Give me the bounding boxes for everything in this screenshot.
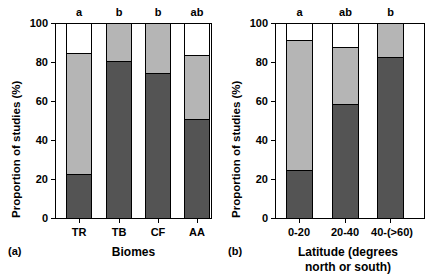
- segment-white: [185, 24, 209, 55]
- segment-light-gray: [67, 53, 91, 174]
- segment-light-gray: [287, 40, 312, 170]
- panel-b-xtick-40-gt60: 40-(>60): [364, 226, 420, 238]
- panel-b-xtick-mark-20-40: [345, 219, 346, 223]
- panel-b-letter-40-gt60: b: [377, 6, 404, 18]
- panel-a-letter-TR: a: [66, 6, 92, 18]
- panel-a-ytick-40: 40: [22, 135, 48, 145]
- panel-a-bar-TR[interactable]: [66, 24, 92, 218]
- panel-a-ytick-0: 0: [22, 213, 48, 223]
- panel-a-letter-TB: b: [106, 6, 132, 18]
- segment-light-gray: [146, 24, 170, 73]
- panel-b-ytick-100: 100: [242, 18, 268, 28]
- panel-b-tag: (b): [228, 245, 242, 257]
- panel-a-xtick-mark-CF: [158, 219, 159, 223]
- segment-light-gray: [333, 47, 358, 104]
- panel-a-ytick-100: 100: [22, 18, 48, 28]
- panel-a-xtick-CF: CF: [138, 226, 178, 238]
- panel-b-ytick-80: 80: [242, 57, 268, 67]
- panel-b-x-axis-title-line2: north or south): [268, 260, 428, 274]
- panel-a-letter-AA: ab: [184, 6, 210, 18]
- segment-dark-gray: [378, 57, 403, 218]
- panel-a-bar-CF[interactable]: [145, 24, 171, 218]
- panel-a-tag: (a): [8, 245, 21, 257]
- panel-a-ytick-60: 60: [22, 96, 48, 106]
- figure-root: Proportion of studies (%) 100 80 60 40 2…: [0, 0, 432, 280]
- segment-white: [67, 24, 91, 53]
- panel-b-ytick-60: 60: [242, 96, 268, 106]
- panel-a-x-axis-title: Biomes: [55, 245, 212, 259]
- panel-b-bar-20-40[interactable]: [332, 24, 359, 218]
- segment-dark-gray: [185, 119, 209, 218]
- panel-b-xtick-0-20: 0-20: [275, 226, 323, 238]
- panel-b-ytick-0: 0: [242, 213, 268, 223]
- panel-b-bar-0-20[interactable]: [286, 24, 313, 218]
- panel-a-bar-AA[interactable]: [184, 24, 210, 218]
- panel-b-letter-0-20: a: [286, 6, 313, 18]
- panel-a-xtick-TB: TB: [99, 226, 139, 238]
- panel-a-ytick-20: 20: [22, 174, 48, 184]
- panel-a-xtick-mark-AA: [197, 219, 198, 223]
- panel-b-ytick-40: 40: [242, 135, 268, 145]
- segment-white: [287, 24, 312, 40]
- panel-a-xtick-mark-TB: [119, 219, 120, 223]
- segment-light-gray: [185, 55, 209, 119]
- segment-dark-gray: [146, 73, 170, 218]
- segment-light-gray: [107, 24, 131, 61]
- panel-a-ytick-80: 80: [22, 57, 48, 67]
- segment-white: [333, 24, 358, 47]
- panel-b-xtick-mark-0-20: [299, 219, 300, 223]
- segment-dark-gray: [67, 174, 91, 218]
- panel-b-bar-40-gt60[interactable]: [377, 24, 404, 218]
- panel-a-xtick-AA: AA: [177, 226, 217, 238]
- segment-dark-gray: [333, 104, 358, 218]
- segment-dark-gray: [287, 170, 312, 218]
- panel-a-xtick-mark-TR: [79, 219, 80, 223]
- panel-b-letter-20-40: ab: [332, 6, 359, 18]
- panel-a-letter-CF: b: [145, 6, 171, 18]
- segment-dark-gray: [107, 61, 131, 218]
- panel-b-xtick-mark-40-gt60: [390, 219, 391, 223]
- panel-b-xtick-20-40: 20-40: [321, 226, 369, 238]
- panel-a-bar-TB[interactable]: [106, 24, 132, 218]
- panel-a-xtick-TR: TR: [59, 226, 99, 238]
- panel-a-y-axis-title: Proportion of studies (%): [10, 81, 22, 218]
- segment-light-gray: [378, 24, 403, 57]
- panel-a: Proportion of studies (%) 100 80 60 40 2…: [0, 0, 216, 280]
- panel-b-ytick-20: 20: [242, 174, 268, 184]
- panel-b: Proportion of studies (%) 100 80 60 40 2…: [216, 0, 432, 280]
- panel-b-y-axis-title: Proportion of studies (%): [230, 81, 242, 218]
- panel-b-x-axis-title-line1: Latitude (degrees: [268, 245, 428, 259]
